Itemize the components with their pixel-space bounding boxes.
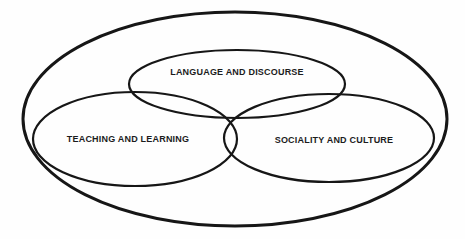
sociality-culture-label: SOCIALITY AND CULTURE: [275, 135, 394, 145]
teaching-learning-label: TEACHING AND LEARNING: [67, 134, 189, 144]
venn-diagram-figure: LANGUAGE AND DISCOURSE TEACHING AND LEAR…: [0, 0, 465, 239]
language-discourse-label: LANGUAGE AND DISCOURSE: [170, 67, 304, 77]
venn-diagram-svg: LANGUAGE AND DISCOURSE TEACHING AND LEAR…: [0, 0, 465, 239]
language-discourse-ellipse: [129, 50, 345, 118]
